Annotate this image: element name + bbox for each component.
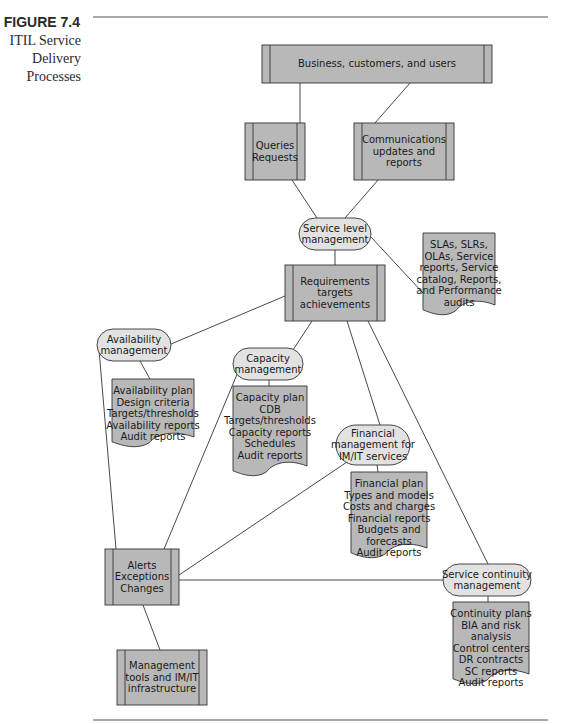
sla-docs-document: SLAs, SLRs,OLAs, Servicereports, Service… (416, 233, 501, 315)
node-label-line: Capacity (246, 353, 290, 364)
node-label-line: targets (317, 287, 353, 298)
node-label-line: management (302, 234, 369, 245)
connector-financial-to-alerts (179, 460, 350, 575)
node-label-line: Capacity plan (236, 392, 304, 403)
connector-business-to-communications (375, 83, 410, 123)
node-label-line: Audit reports (458, 677, 523, 688)
node-label-line: achievements (300, 299, 370, 310)
node-label-line: CDB (259, 404, 281, 415)
node-label-line: DR contracts (459, 654, 524, 665)
node-label-line: updates and (373, 146, 435, 157)
node-label-line: reports (386, 157, 422, 168)
node-label-line: management (235, 364, 302, 375)
node-label-line: Changes (120, 583, 164, 594)
node-label-line: Audit reports (120, 431, 185, 442)
node-label-line: Service level (303, 223, 367, 234)
node-label-line: management for (331, 439, 416, 450)
node-label-line: Budgets and (357, 524, 420, 535)
connector-alerts-to-mgmt_tools (143, 605, 160, 650)
nodes-layer: Business, customers, and usersQueriesReq… (97, 45, 532, 705)
node-label-line: Audit reports (356, 547, 421, 558)
node-label-line: infrastructure (128, 683, 196, 694)
node-label-line: catalog, Reports, (417, 274, 502, 285)
node-label-line: Business, customers, and users (298, 58, 456, 69)
node-label-line: IM/IT services (339, 451, 407, 462)
connector-requirements-to-availability (171, 296, 285, 344)
connector-availability-to-availability_docs (140, 361, 150, 379)
capacity-process-oval: Capacitymanagement (233, 348, 303, 380)
node-label-line: Audit reports (237, 450, 302, 461)
availability-process-oval: Availabilitymanagement (97, 329, 171, 361)
node-label-line: Communications (362, 134, 446, 145)
node-label-line: Alerts (127, 560, 156, 571)
node-label-line: SLAs, SLRs, (430, 239, 488, 250)
node-label-line: forecasts (366, 536, 412, 547)
node-label-line: Continuity plans (450, 608, 531, 619)
capacity-docs-document: Capacity planCDBTargets/thresholdsCapaci… (223, 386, 316, 476)
financial-process-oval: Financialmanagement forIM/IT services (331, 425, 416, 465)
node-label-line: SC reports (465, 666, 517, 677)
availability-docs-document: Availability planDesign criteriaTargets/… (106, 379, 200, 447)
node-label-line: reports, Service (419, 262, 498, 273)
connector-queries-to-slm (292, 180, 317, 218)
connector-requirements-to-financial (347, 321, 380, 425)
connector-requirements-to-capacity (293, 321, 312, 350)
node-label-line: Requirements (300, 276, 370, 287)
node-label-line: Control centers (453, 643, 530, 654)
node-label-line: management (454, 580, 521, 591)
mgmt-tools-process-box: Managementtools and IM/ITinfrastructure (117, 650, 207, 705)
node-label-line: Availability plan (113, 385, 192, 396)
node-label-line: Service continuity (442, 569, 532, 580)
connector-communications-to-slm (345, 180, 378, 218)
continuity-process-oval: Service continuitymanagement (442, 564, 532, 596)
itil-service-delivery-diagram: Business, customers, and usersQueriesReq… (0, 0, 564, 724)
node-label-line: BIA and risk (461, 620, 521, 631)
node-label-line: Financial (351, 428, 395, 439)
node-label-line: Types and models (343, 490, 434, 501)
requirements-process-box: Requirementstargetsachievements (285, 265, 385, 321)
node-label-line: Design criteria (116, 397, 189, 408)
node-label-line: Capacity reports (229, 427, 312, 438)
queries-process-box: QueriesRequests (245, 123, 305, 180)
communications-process-box: Communicationsupdates andreports (354, 123, 454, 180)
node-label-line: audits (444, 297, 475, 308)
node-label-line: Costs and charges (343, 501, 435, 512)
node-label-line: management (101, 345, 168, 356)
business-process-box: Business, customers, and users (262, 45, 492, 83)
node-label-line: tools and IM/IT (125, 672, 199, 683)
node-label-line: OLAs, Service (424, 251, 493, 262)
node-label-line: Requests (252, 152, 298, 163)
node-label-line: Management (129, 660, 195, 671)
node-label-line: Financial reports (348, 513, 431, 524)
alerts-process-box: AlertsExceptionsChanges (105, 549, 179, 605)
connector-financial-to-financial_docs (377, 465, 378, 472)
slm-process-oval: Service levelmanagement (299, 218, 371, 250)
node-label-line: analysis (471, 631, 512, 642)
continuity-docs-document: Continuity plansBIA and riskanalysisCont… (450, 602, 531, 688)
node-label-line: Availability (107, 334, 162, 345)
node-label-line: and Performance (416, 285, 501, 296)
node-label-line: Exceptions (115, 571, 169, 582)
node-label-line: Targets/thresholds (223, 415, 316, 426)
node-label-line: Queries (256, 140, 295, 151)
node-label-line: Schedules (244, 438, 295, 449)
node-label-line: Availability reports (106, 420, 199, 431)
node-label-line: Targets/thresholds (106, 408, 199, 419)
node-label-line: Financial plan (355, 478, 424, 489)
financial-docs-document: Financial planTypes and modelsCosts and … (343, 472, 435, 558)
